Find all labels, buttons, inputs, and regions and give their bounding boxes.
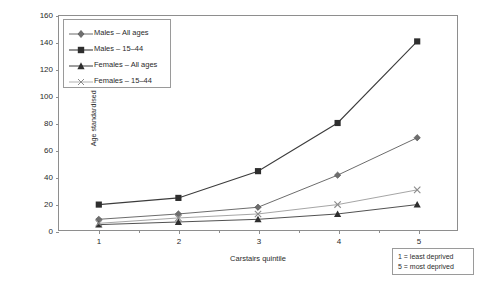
legend-cross-icon <box>68 74 94 86</box>
x-axis-tick-label: 4 <box>324 237 354 246</box>
y-axis-tick-label: 80 <box>19 120 59 128</box>
x-axis-tick-label: 3 <box>244 237 274 246</box>
x-axis-tick-mark <box>259 230 260 234</box>
x-axis-tick-label: 2 <box>164 237 194 246</box>
y-axis-tick-mark <box>56 232 59 233</box>
legend-square-icon <box>68 42 94 54</box>
legend-item-label: Females – All ages <box>94 60 157 69</box>
x-axis-tick-label: 5 <box>404 237 434 246</box>
x-axis-minor-tick-mark <box>139 230 140 233</box>
deprivation-note: 1 = least deprived 5 = most deprived <box>392 248 474 275</box>
data-point-diamond <box>414 135 420 141</box>
note-line-least-deprived: 1 = least deprived <box>398 252 469 262</box>
data-point-diamond <box>255 204 261 210</box>
x-axis-tick-mark <box>99 230 100 234</box>
data-point-square <box>255 168 261 174</box>
y-axis-tick-label: 0 <box>19 228 59 236</box>
data-point-square <box>335 120 341 126</box>
data-point-square <box>175 195 181 201</box>
legend-item[interactable]: Males – All ages <box>64 24 170 40</box>
legend-item-label: Males – 15–44 <box>94 44 143 53</box>
legend-item[interactable]: Females – 15–44 <box>64 72 170 88</box>
y-axis-tick-label: 160 <box>19 12 59 20</box>
legend-diamond-icon <box>68 26 94 38</box>
data-point-square <box>96 202 102 208</box>
y-axis-tick-label: 140 <box>19 39 59 47</box>
y-axis-tick-label: 40 <box>19 174 59 182</box>
y-axis-tick-label: 20 <box>19 201 59 209</box>
data-point-diamond <box>334 172 340 178</box>
legend-item-label: Females – 15–44 <box>94 76 152 85</box>
chart-legend: Males – All ages Males – 15–44 Females –… <box>63 19 171 88</box>
series-diamond <box>96 135 421 223</box>
legend-item-label: Males – All ages <box>94 28 149 37</box>
data-point-square <box>414 38 420 44</box>
legend-triangle-icon <box>68 58 94 70</box>
legend-item[interactable]: Females – All ages <box>64 56 170 72</box>
x-axis-minor-tick-mark <box>219 230 220 233</box>
x-axis-tick-mark <box>339 230 340 234</box>
x-axis-tick-mark <box>419 230 420 234</box>
x-axis-tick-label: 1 <box>84 237 114 246</box>
note-line-most-deprived: 5 = most deprived <box>398 262 469 272</box>
x-axis-tick-mark <box>179 230 180 234</box>
y-axis-tick-label: 100 <box>19 93 59 101</box>
x-axis-minor-tick-mark <box>379 230 380 233</box>
legend-item[interactable]: Males – 15–44 <box>64 40 170 56</box>
y-axis-tick-label: 60 <box>19 147 59 155</box>
x-axis-minor-tick-mark <box>299 230 300 233</box>
y-axis-tick-label: 120 <box>19 66 59 74</box>
chart-figure: Age standardised rate per million 020406… <box>0 0 480 286</box>
data-point-triangle <box>414 201 421 208</box>
